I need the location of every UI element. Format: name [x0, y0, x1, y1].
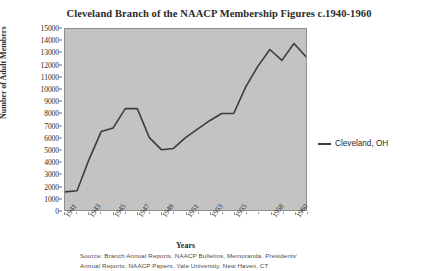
y-tick-mark-10000	[59, 89, 62, 90]
x-minor-tick-1952	[198, 212, 199, 214]
x-minor-tick-1957	[258, 212, 259, 214]
source-note: Source: Branch Annual Reports, NAACP Bul…	[80, 251, 370, 271]
y-tick-mark-8000	[59, 113, 62, 114]
y-tick-label-10000: 10000	[41, 85, 60, 94]
y-tick-label-7000: 7000	[44, 121, 59, 130]
y-tick-mark-6000	[59, 137, 62, 138]
y-tick-label-9000: 9000	[44, 97, 59, 106]
x-minor-tick-1944	[100, 212, 101, 214]
x-minor-tick-1956	[246, 212, 247, 214]
x-minor-tick-1958	[271, 212, 272, 214]
y-axis-labels: 1500014000130001200011000100009000800070…	[18, 28, 62, 211]
y-tick-mark-11000	[59, 76, 62, 77]
legend-line-swatch	[318, 143, 331, 145]
y-tick-mark-14000	[59, 40, 62, 41]
x-minor-tick-1950	[173, 212, 174, 214]
series-line-cleveland-oh	[65, 43, 306, 191]
y-tick-label-4000: 4000	[44, 158, 59, 167]
x-minor-tick-1949	[161, 212, 162, 214]
y-tick-label-11000: 11000	[41, 72, 59, 81]
chart-figure: Cleveland Branch of the NAACP Membership…	[0, 0, 438, 271]
x-minor-tick-1953	[210, 212, 211, 214]
x-minor-tick-1955	[234, 212, 235, 214]
x-minor-tick-1959	[283, 212, 284, 214]
y-tick-mark-3000	[59, 174, 62, 175]
y-tick-mark-15000	[59, 28, 62, 29]
y-tick-mark-1000	[59, 198, 62, 199]
x-minor-tick-1943	[88, 212, 89, 214]
x-axis-labels: 1941194319451947194919511953195519581960	[64, 212, 307, 240]
y-tick-mark-4000	[59, 162, 62, 163]
y-tick-label-12000: 12000	[41, 60, 60, 69]
x-minor-tick-1948	[149, 212, 150, 214]
y-tick-mark-5000	[59, 150, 62, 151]
x-axis-title: Years	[64, 241, 307, 250]
chart-legend: Cleveland, OH	[318, 139, 388, 148]
x-minor-tick-1954	[222, 212, 223, 214]
x-minor-tick-1946	[125, 212, 126, 214]
x-minor-tick-1951	[186, 212, 187, 214]
y-tick-label-6000: 6000	[44, 133, 59, 142]
source-note-line-2: Annual Reports, NAACP Papers, Yale Unive…	[80, 261, 370, 271]
y-tick-label-5000: 5000	[44, 146, 59, 155]
y-tick-mark-9000	[59, 101, 62, 102]
legend-label-cleveland-oh: Cleveland, OH	[335, 139, 388, 148]
x-minor-tick-1945	[113, 212, 114, 214]
x-minor-tick-1961	[307, 212, 308, 214]
y-axis-title: Number of Adult Members	[0, 26, 8, 119]
x-minor-tick-1947	[137, 212, 138, 214]
y-tick-label-1000: 1000	[44, 194, 59, 203]
y-tick-label-14000: 14000	[41, 36, 60, 45]
y-tick-label-3000: 3000	[44, 170, 59, 179]
y-tick-label-8000: 8000	[44, 109, 59, 118]
y-tick-mark-7000	[59, 125, 62, 126]
y-tick-mark-12000	[59, 64, 62, 65]
y-tick-label-13000: 13000	[41, 48, 60, 57]
plot-area	[64, 28, 307, 211]
y-tick-mark-13000	[59, 52, 62, 53]
y-tick-label-15000: 15000	[41, 24, 60, 33]
chart-title: Cleveland Branch of the NAACP Membership…	[0, 8, 438, 19]
x-minor-tick-1960	[295, 212, 296, 214]
y-tick-mark-2000	[59, 186, 62, 187]
y-tick-mark-0	[59, 211, 62, 212]
series-svg	[65, 29, 306, 210]
y-tick-label-2000: 2000	[44, 182, 59, 191]
source-note-line-1: Source: Branch Annual Reports, NAACP Bul…	[80, 251, 370, 261]
x-minor-tick-1942	[76, 212, 77, 214]
x-minor-tick-1941	[64, 212, 65, 214]
